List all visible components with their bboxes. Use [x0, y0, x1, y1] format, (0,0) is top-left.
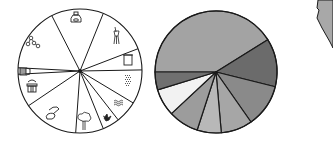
chart-canvas	[0, 0, 333, 145]
cropped-edge-shape	[317, 0, 333, 48]
pie-center	[78, 69, 82, 73]
pictogram-pie-chart	[18, 9, 142, 133]
gray-pie-chart	[155, 11, 277, 133]
